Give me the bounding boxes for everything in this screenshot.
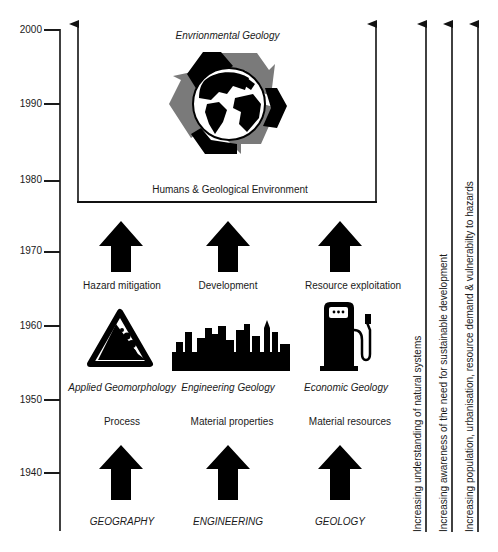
- tick-mark: [44, 180, 60, 182]
- recycle-globe-icon: [169, 52, 287, 154]
- tick-label-1950: 1950: [0, 394, 42, 406]
- tick-mark: [44, 325, 60, 327]
- field-engineering-geology: Engineering Geology: [168, 382, 288, 394]
- tick-mark: [44, 472, 60, 474]
- discipline-engineering: ENGINEERING: [188, 516, 268, 528]
- tick-label-1990: 1990: [0, 98, 42, 110]
- focus-material-resources: Material resources: [300, 416, 400, 428]
- driver-resource-exploitation: Resource exploitation: [290, 280, 416, 292]
- trend-label-understanding: Increasing understanding of natural syst…: [412, 336, 424, 532]
- focus-material-properties: Material properties: [172, 416, 292, 428]
- tick-label-2000: 2000: [0, 24, 42, 36]
- discipline-geology: GEOLOGY: [302, 516, 378, 528]
- environmental-geology-title: Envrionmental Geology: [150, 30, 305, 42]
- block-arrow-up-icon: [318, 445, 362, 500]
- tick-mark: [44, 399, 60, 401]
- block-arrow-up-icon: [99, 221, 143, 272]
- tick-mark: [44, 103, 60, 105]
- trend-label-sustainability: Increasing awareness of the need for sus…: [438, 254, 450, 532]
- tick-mark: [44, 251, 60, 253]
- field-applied-geomorphology: Applied Geomorphology: [62, 382, 182, 394]
- driver-development: Development: [180, 280, 276, 292]
- block-arrow-up-icon: [206, 221, 250, 272]
- tick-label-1970: 1970: [0, 245, 42, 257]
- focus-process: Process: [80, 416, 164, 428]
- tick-label-1980: 1980: [0, 174, 42, 186]
- tick-label-1940: 1940: [0, 467, 42, 479]
- city-skyline-icon: [172, 320, 290, 371]
- field-economic-geology: Economic Geology: [296, 382, 396, 394]
- tick-label-1960: 1960: [0, 320, 42, 332]
- block-arrow-up-icon: [206, 445, 250, 500]
- trend-label-population: Increasing population, urbanisation, res…: [464, 181, 476, 532]
- block-arrow-up-icon: [99, 445, 143, 500]
- block-arrow-up-icon: [318, 221, 362, 272]
- humans-geological-environment-caption: Humans & Geological Environment: [130, 184, 330, 196]
- rockfall-warning-icon: [90, 312, 150, 364]
- tick-mark: [44, 29, 60, 31]
- driver-hazard-mitigation: Hazard mitigation: [70, 280, 174, 292]
- fuel-pump-icon: [320, 302, 371, 371]
- discipline-geography: GEOGRAPHY: [72, 516, 172, 528]
